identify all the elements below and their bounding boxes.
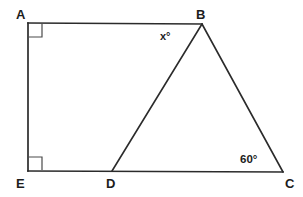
segment-ec	[28, 171, 283, 172]
geometry-canvas	[0, 0, 303, 197]
segment-bc	[202, 24, 283, 172]
angle-label-60: 60°	[240, 154, 257, 166]
vertex-label-c: C	[285, 177, 294, 190]
vertex-label-d: D	[106, 177, 115, 190]
geometry-figure: A B C D E x° 60°	[0, 0, 303, 197]
segment-bd	[112, 24, 202, 171]
vertex-label-e: E	[16, 177, 25, 190]
segment-ab	[28, 23, 202, 24]
right-angle-mark-a	[29, 24, 42, 37]
right-angle-mark-e	[29, 157, 42, 170]
angle-label-x: x°	[160, 31, 171, 42]
vertex-label-b: B	[196, 8, 205, 21]
vertex-label-a: A	[16, 8, 25, 21]
